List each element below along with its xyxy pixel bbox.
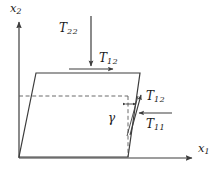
T22-label-subscript: 22 — [67, 26, 78, 36]
T12-top-label-subscript: 12 — [107, 56, 118, 66]
T11-label-base: T — [146, 117, 154, 131]
x1-axis-label-subscript: 1 — [205, 147, 210, 156]
T12-right-label: T12 — [146, 90, 165, 103]
reference-dashed-lines — [19, 96, 128, 157]
x2-axis-label: x2 — [10, 3, 22, 16]
axis-group — [19, 22, 192, 158]
shear-deformation-figure: x2 x1 T22 T12 T12 T11 γ — [0, 0, 218, 173]
T12-right-label-base: T — [146, 89, 154, 103]
figure-canvas — [0, 0, 218, 173]
x2-axis-label-subscript: 2 — [17, 7, 22, 16]
x1-axis-label: x1 — [198, 143, 210, 156]
deformed-element-parallelogram — [19, 73, 140, 157]
T12-right-label-subscript: 12 — [154, 94, 165, 104]
T12-top-label-base: T — [99, 51, 107, 65]
T11-label: T11 — [146, 118, 165, 131]
T12-right-arrow-tail-line — [127, 96, 138, 136]
T11-label-subscript: 11 — [154, 122, 165, 132]
T22-label: T22 — [59, 22, 78, 35]
T12-top-label: T12 — [99, 52, 118, 65]
T22-label-base: T — [59, 21, 67, 35]
gamma-angle-label: γ — [108, 112, 115, 124]
